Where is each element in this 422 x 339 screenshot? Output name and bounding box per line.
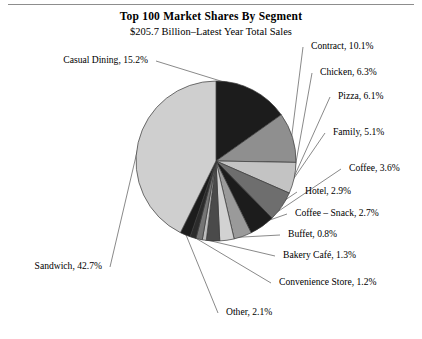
pie-slice-label: Coffee, 3.6% <box>349 163 400 174</box>
pie-slice-group <box>136 81 296 241</box>
leader-line <box>110 143 139 267</box>
pie-slice-label: Other, 2.1% <box>226 307 272 318</box>
pie-slice-label: Coffee – Snack, 2.7% <box>295 208 379 219</box>
pie-slice-label: Sandwich, 42.7% <box>0 261 102 272</box>
leader-line <box>193 237 271 283</box>
pie-slice-label: Family, 5.1% <box>333 127 384 138</box>
pie-slice-label: Pizza, 6.1% <box>338 91 384 102</box>
leader-line <box>186 234 218 313</box>
pie-slice-label: Contract, 10.1% <box>311 41 374 52</box>
pie-slice-label: Bakery Café, 1.3% <box>283 250 356 261</box>
pie-slice-label: Hotel, 2.9% <box>305 186 351 197</box>
pie-slice-label: Casual Dining, 15.2% <box>0 55 148 66</box>
pie-slice-label: Chicken, 6.3% <box>320 67 377 78</box>
pie-slice-label: Convenience Store, 1.2% <box>279 277 377 288</box>
pie-slice-label: Buffet, 0.8% <box>288 229 337 240</box>
chart-page: Top 100 Market Shares By Segment $205.7 … <box>0 0 422 339</box>
leader-line <box>292 47 304 138</box>
